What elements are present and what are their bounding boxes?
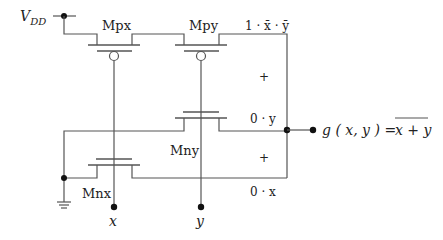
ground-node xyxy=(61,175,67,181)
ground-icon xyxy=(57,202,71,208)
output-rhs: x + y xyxy=(395,122,433,138)
vdd-label: VDD xyxy=(20,8,46,27)
input-y-label: y xyxy=(195,213,205,229)
input-x-label: x xyxy=(109,213,117,229)
mny-label: Mny xyxy=(170,143,200,158)
term-mid: 0 · y xyxy=(250,112,276,126)
vdd-wire xyxy=(64,16,97,45)
term-plus-2: + xyxy=(259,151,269,165)
output-lhs: g ( x, y ) = xyxy=(322,122,396,138)
inverter-bubble-icon xyxy=(197,52,206,61)
transistor-mnx xyxy=(64,159,287,178)
term-top: 1 · x̄ · ȳ xyxy=(245,19,289,33)
transistor-mpx xyxy=(88,34,184,61)
mpx-label: Mpx xyxy=(102,18,132,33)
term-plus-1: + xyxy=(259,70,269,84)
input-y-node xyxy=(198,204,204,210)
term-bottom: 0 · x xyxy=(250,185,276,199)
mnx-label: Mnx xyxy=(82,186,112,201)
mpy-label: Mpy xyxy=(189,18,219,33)
output-terminal xyxy=(310,127,316,133)
input-x-node xyxy=(111,204,117,210)
nor-gate-schematic: VDD Mpx Mpy Mny Mnx xyxy=(0,0,443,240)
inverter-bubble-icon xyxy=(110,52,119,61)
